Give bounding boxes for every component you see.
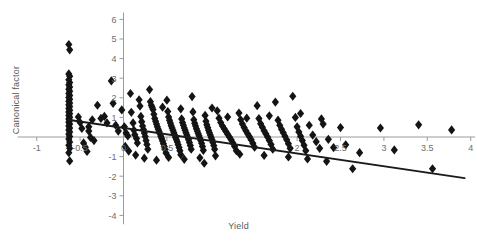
- x-axis-title: Yield: [0, 221, 477, 231]
- data-point: [224, 112, 231, 121]
- data-point: [415, 120, 422, 129]
- data-point: [127, 89, 134, 98]
- y-tick-label: -4: [108, 211, 116, 221]
- data-point: [66, 156, 73, 165]
- x-tick-label: 0.5: [161, 143, 174, 153]
- data-point: [349, 164, 356, 173]
- data-point: [254, 101, 261, 110]
- data-point: [337, 123, 344, 132]
- x-tick-label: 2.5: [334, 143, 347, 153]
- data-point: [391, 145, 398, 154]
- y-tick-label: 6: [111, 15, 116, 25]
- data-point: [429, 164, 436, 173]
- data-point: [212, 151, 219, 160]
- data-point: [136, 101, 143, 110]
- y-axis-title: Canonical factor: [11, 55, 21, 145]
- data-point: [356, 148, 363, 157]
- data-point: [266, 111, 273, 120]
- data-point: [128, 108, 135, 117]
- y-tick-label: 3: [111, 74, 116, 84]
- x-tick-label: -0.5: [72, 143, 88, 153]
- x-tick-label: 0: [121, 143, 126, 153]
- data-point: [132, 150, 139, 159]
- data-point: [163, 96, 170, 105]
- data-point: [316, 144, 323, 153]
- y-tick-label: 1: [111, 113, 116, 123]
- y-tick-label: 5: [111, 34, 116, 44]
- plot-canvas: -1-0.500.522.533.54-4-3-2-1123456: [0, 0, 477, 246]
- scatter-plot-figure: -1-0.500.522.533.54-4-3-2-1123456 Canoni…: [0, 0, 477, 246]
- y-tick-label: 4: [111, 54, 116, 64]
- x-tick-label: 4: [468, 143, 473, 153]
- data-point: [129, 118, 136, 127]
- data-point: [118, 105, 125, 114]
- data-point: [272, 98, 279, 107]
- data-point: [243, 114, 250, 123]
- x-tick-label: 3.5: [421, 143, 434, 153]
- data-point: [94, 101, 101, 110]
- data-point: [141, 154, 148, 163]
- data-point: [196, 153, 203, 162]
- y-tick-label: -3: [108, 191, 116, 201]
- data-point: [325, 135, 332, 144]
- y-tick-label: 2: [111, 93, 116, 103]
- x-tick-label: 3: [381, 143, 386, 153]
- data-point: [448, 125, 455, 134]
- data-point: [201, 159, 208, 168]
- data-point: [146, 85, 153, 94]
- data-point: [153, 156, 160, 165]
- data-point: [309, 130, 316, 139]
- data-point: [289, 92, 296, 101]
- data-point: [306, 121, 313, 130]
- data-point: [313, 137, 320, 146]
- data-point: [177, 104, 184, 113]
- data-point: [189, 107, 196, 116]
- x-tick-label: -1: [33, 143, 41, 153]
- data-point: [285, 152, 292, 161]
- data-point: [261, 151, 268, 160]
- y-tick-label: -2: [108, 172, 116, 182]
- data-point: [188, 92, 195, 101]
- data-point: [377, 123, 384, 132]
- x-tick-label: 2: [295, 143, 300, 153]
- y-tick-label: -1: [108, 152, 116, 162]
